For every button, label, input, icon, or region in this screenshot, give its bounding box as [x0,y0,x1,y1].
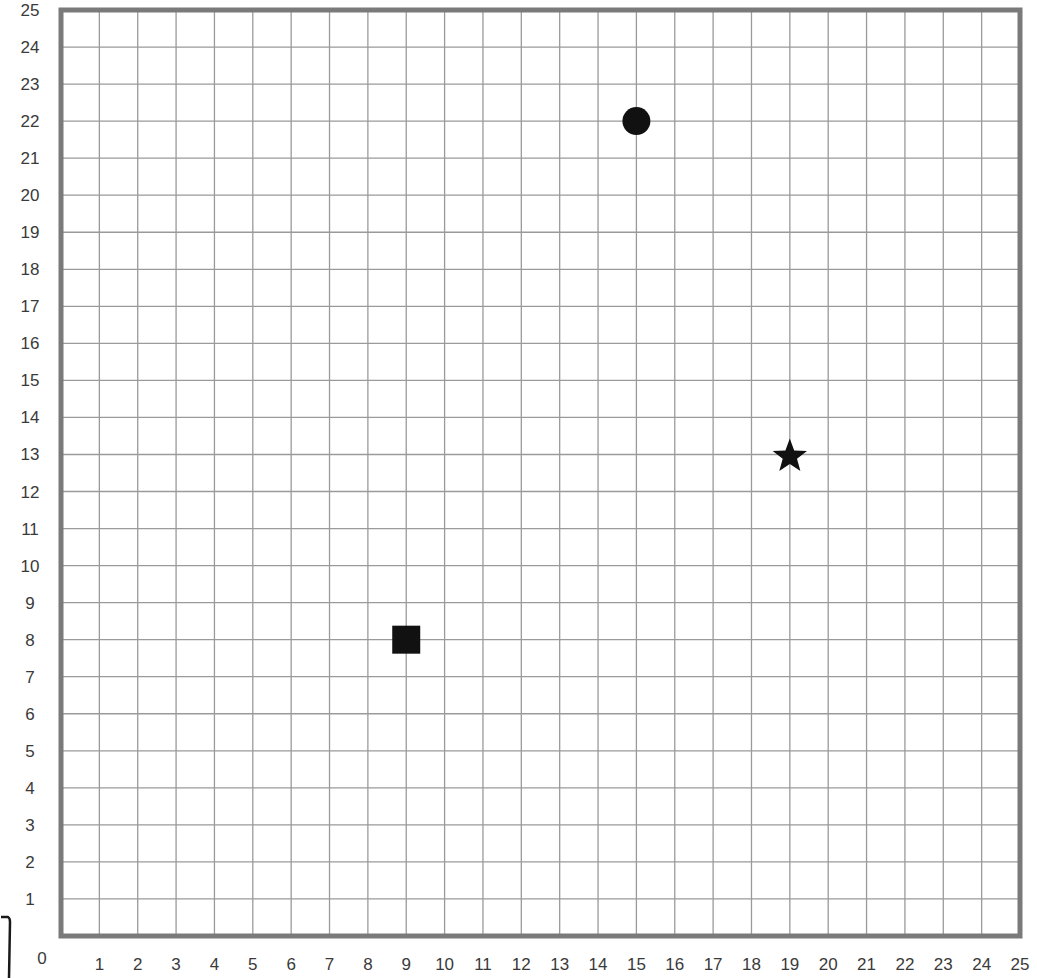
y-tick-label: 16 [21,334,40,353]
x-tick-label: 14 [589,955,608,974]
x-tick-label: 8 [363,955,372,974]
x-tick-label: 5 [248,955,257,974]
x-tick-label: 12 [512,955,531,974]
x-tick-label: 24 [972,955,991,974]
x-tick-label: 22 [895,955,914,974]
x-tick-label: 9 [402,955,411,974]
x-tick-label: 2 [133,955,142,974]
x-tick-label: 6 [286,955,295,974]
x-tick-label: 1 [95,955,104,974]
y-tick-label: 25 [21,1,40,20]
y-tick-label: 4 [25,779,34,798]
x-tick-label: 3 [171,955,180,974]
y-tick-label: 13 [21,445,40,464]
x-tick-label: 4 [210,955,219,974]
x-tick-label: 25 [1011,955,1030,974]
y-tick-label: 6 [25,705,34,724]
y-tick-label: 1 [25,890,34,909]
x-axis-tick-labels: 1234567891011121314151617181920212223242… [95,955,1030,974]
y-tick-label: 19 [21,223,40,242]
x-tick-label: 19 [780,955,799,974]
x-tick-label: 16 [665,955,684,974]
x-tick-label: 17 [704,955,723,974]
grid-lines [61,10,1020,936]
x-tick-label: 7 [325,955,334,974]
y-tick-label: 21 [21,149,40,168]
y-tick-label: 23 [21,75,40,94]
bracket-mark [1,917,10,978]
x-tick-label: 21 [857,955,876,974]
y-tick-label: 24 [21,38,40,57]
x-tick-label: 20 [819,955,838,974]
origin-label: 0 [37,949,46,968]
y-tick-label: 17 [21,297,40,316]
y-axis-tick-labels: 1234567891011121314151617181920212223242… [21,1,40,909]
plot-frame [61,10,1020,936]
y-tick-label: 10 [21,557,40,576]
y-tick-label: 22 [21,112,40,131]
x-tick-label: 18 [742,955,761,974]
x-tick-label: 11 [474,955,492,974]
y-tick-label: 7 [25,668,34,687]
y-tick-label: 9 [25,594,34,613]
coordinate-grid-chart: 1234567891011121314151617181920212223242… [0,0,1037,978]
y-tick-label: 11 [21,520,39,539]
circle-marker [622,107,650,135]
y-tick-label: 3 [25,816,34,835]
y-tick-label: 14 [21,408,40,427]
x-tick-label: 13 [550,955,569,974]
x-tick-label: 10 [435,955,454,974]
y-tick-label: 8 [25,631,34,650]
y-tick-label: 18 [21,260,40,279]
y-tick-label: 2 [25,853,34,872]
y-tick-label: 12 [21,483,40,502]
y-tick-label: 20 [21,186,40,205]
square-marker [392,626,420,654]
x-tick-label: 15 [627,955,646,974]
y-tick-label: 15 [21,371,40,390]
y-tick-label: 5 [25,742,34,761]
x-tick-label: 23 [934,955,953,974]
